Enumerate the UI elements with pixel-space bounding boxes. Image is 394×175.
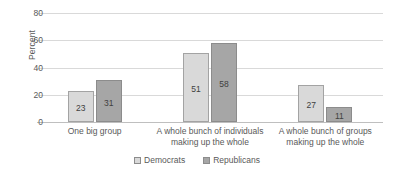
bars-layer: 233151582711 bbox=[37, 13, 383, 122]
category-label-line: A whole bunch of individuals bbox=[152, 126, 267, 137]
x-axis-category-labels: One big groupA whole bunch of individual… bbox=[37, 126, 383, 154]
gridline-0 bbox=[37, 122, 383, 123]
category-label-line: One big group bbox=[37, 126, 152, 137]
bar-group-2: 5158 bbox=[152, 13, 267, 122]
bar-value-label: 27 bbox=[307, 101, 316, 110]
bar-group-1: 2331 bbox=[37, 13, 152, 122]
plot-area: 020406080 233151582711 bbox=[37, 13, 383, 122]
bar-value-label: 51 bbox=[191, 85, 200, 94]
legend-item-republicans[interactable]: Republicans bbox=[203, 156, 260, 165]
legend-swatch-republicans bbox=[203, 157, 210, 164]
chart-legend: DemocratsRepublicans bbox=[0, 156, 394, 165]
category-label-line: making up the whole bbox=[152, 137, 267, 148]
category-label-line: A whole bunch of groups bbox=[268, 126, 383, 137]
bar-republicans-3[interactable]: 11 bbox=[326, 107, 352, 122]
bar-democrats-1[interactable]: 23 bbox=[68, 91, 94, 122]
legend-item-democrats[interactable]: Democrats bbox=[134, 156, 185, 165]
category-label-2: A whole bunch of individualsmaking up th… bbox=[152, 126, 267, 148]
category-label-line: making up the whole bbox=[268, 137, 383, 148]
legend-swatch-democrats bbox=[134, 157, 141, 164]
category-label-3: A whole bunch of groupsmaking up the who… bbox=[268, 126, 383, 148]
bar-democrats-3[interactable]: 27 bbox=[298, 85, 324, 122]
bar-group-3: 2711 bbox=[268, 13, 383, 122]
bar-chart: Percent 020406080 233151582711 One big g… bbox=[0, 0, 394, 175]
bar-value-label: 11 bbox=[335, 112, 344, 121]
legend-label: Republicans bbox=[213, 156, 260, 165]
category-label-1: One big group bbox=[37, 126, 152, 137]
bar-value-label: 58 bbox=[219, 80, 228, 89]
bar-value-label: 23 bbox=[76, 104, 85, 113]
bar-republicans-1[interactable]: 31 bbox=[96, 80, 122, 122]
bar-value-label: 31 bbox=[104, 99, 113, 108]
bar-republicans-2[interactable]: 58 bbox=[211, 43, 237, 122]
legend-label: Democrats bbox=[144, 156, 185, 165]
bar-democrats-2[interactable]: 51 bbox=[183, 53, 209, 122]
